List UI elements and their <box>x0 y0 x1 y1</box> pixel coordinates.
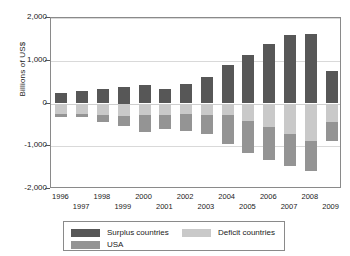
bar-group-2006[interactable] <box>263 18 275 187</box>
bar-segment-surplus <box>263 44 275 104</box>
bar-segment-surplus <box>284 35 296 104</box>
y-tick-label: -2,000 <box>3 184 47 192</box>
plot-area <box>50 17 341 188</box>
bar-segment-deficit <box>284 104 296 135</box>
y-tick-label: 0 <box>3 99 47 107</box>
bar-segment-surplus <box>242 55 254 104</box>
bar-segment-usa <box>263 127 275 161</box>
y-axis-title: Billions of US$ <box>16 14 30 124</box>
x-tick-label-1997: 1997 <box>68 202 94 211</box>
y-tick-label: -1,000 <box>3 141 47 149</box>
y-tick-mark <box>45 188 50 189</box>
bar-segment-surplus <box>139 85 151 104</box>
bar-segment-deficit <box>326 104 338 123</box>
bar-segment-usa <box>242 121 254 153</box>
bar-segment-surplus <box>159 89 171 104</box>
bar-group-2008[interactable] <box>305 18 317 187</box>
bar-segment-usa <box>284 134 296 165</box>
chart-legend: Surplus countriesDeficit countriesUSA <box>63 221 285 251</box>
bar-group-2003[interactable] <box>201 18 213 187</box>
bar-group-2001[interactable] <box>159 18 171 187</box>
bar-segment-deficit <box>159 104 171 115</box>
x-tick-label-1999: 1999 <box>110 202 136 211</box>
bar-segment-deficit <box>118 104 130 116</box>
bar-group-2000[interactable] <box>139 18 151 187</box>
bar-segment-usa <box>139 115 151 131</box>
bar-segment-surplus <box>97 89 109 103</box>
bar-segment-surplus <box>305 34 317 103</box>
x-tick-label-2006: 2006 <box>255 192 281 201</box>
bar-segment-surplus <box>326 71 338 103</box>
x-tick-label-2007: 2007 <box>276 202 302 211</box>
x-tick-label-2002: 2002 <box>172 192 198 201</box>
bar-segment-surplus <box>180 84 192 104</box>
bar-segment-deficit <box>139 104 151 116</box>
bar-segment-usa <box>180 114 192 131</box>
gridline-1000 <box>51 61 340 62</box>
y-tick-label: 2,000 <box>3 13 47 21</box>
bar-segment-usa <box>222 115 234 143</box>
bar-segment-usa <box>97 115 109 122</box>
bar-segment-usa <box>159 115 171 129</box>
x-tick-label-1996: 1996 <box>47 192 73 201</box>
x-tick-label-2009: 2009 <box>318 202 344 211</box>
bar-segment-usa <box>305 141 317 171</box>
bar-segment-usa <box>55 114 67 117</box>
legend-swatch-icon <box>71 241 100 249</box>
legend-label: Surplus countries <box>107 228 169 237</box>
bar-group-1996[interactable] <box>55 18 67 187</box>
legend-item[interactable]: USA <box>71 239 123 250</box>
bar-segment-deficit <box>305 104 317 142</box>
bar-segment-usa <box>118 116 130 126</box>
legend-swatch-icon <box>71 229 100 237</box>
x-tick-label-2005: 2005 <box>234 202 260 211</box>
bar-segment-deficit <box>222 104 234 116</box>
x-tick-label-2000: 2000 <box>131 192 157 201</box>
bar-group-2004[interactable] <box>222 18 234 187</box>
x-tick-label-2001: 2001 <box>151 202 177 211</box>
bar-segment-surplus <box>76 91 88 103</box>
bar-group-2002[interactable] <box>180 18 192 187</box>
bar-segment-surplus <box>201 77 213 104</box>
x-tick-label-2003: 2003 <box>193 202 219 211</box>
legend-item[interactable]: Surplus countries <box>71 227 169 238</box>
bar-segment-usa <box>76 114 88 117</box>
x-tick-label-2004: 2004 <box>214 192 240 201</box>
y-tick-label: 1,000 <box>3 56 47 64</box>
bar-group-1998[interactable] <box>97 18 109 187</box>
x-tick-label-2008: 2008 <box>297 192 323 201</box>
bar-segment-deficit <box>263 104 275 127</box>
legend-label: USA <box>107 240 123 249</box>
chart-figure: Billions of US$ 2,0001,0000-1,000-2,000 … <box>0 0 350 256</box>
bar-segment-deficit <box>55 104 67 114</box>
bar-group-1999[interactable] <box>118 18 130 187</box>
bar-group-2009[interactable] <box>326 18 338 187</box>
bar-segment-deficit <box>180 104 192 115</box>
legend-swatch-icon <box>182 229 211 237</box>
bar-segment-surplus <box>118 87 130 103</box>
bar-segment-usa <box>201 115 213 135</box>
bar-group-2007[interactable] <box>284 18 296 187</box>
bar-segment-usa <box>326 122 338 141</box>
bar-group-2005[interactable] <box>242 18 254 187</box>
legend-item[interactable]: Deficit countries <box>182 227 275 238</box>
bar-group-1997[interactable] <box>76 18 88 187</box>
bar-segment-surplus <box>55 93 67 104</box>
bar-segment-deficit <box>242 104 254 121</box>
gridline--1000 <box>51 146 340 147</box>
bar-segment-surplus <box>222 65 234 103</box>
x-tick-label-1998: 1998 <box>89 192 115 201</box>
bar-segment-deficit <box>97 104 109 115</box>
gridline-0 <box>51 104 340 105</box>
gridline-2000 <box>51 18 340 19</box>
bar-segment-deficit <box>76 104 88 114</box>
bar-segment-deficit <box>201 104 213 115</box>
legend-label: Deficit countries <box>218 228 275 237</box>
